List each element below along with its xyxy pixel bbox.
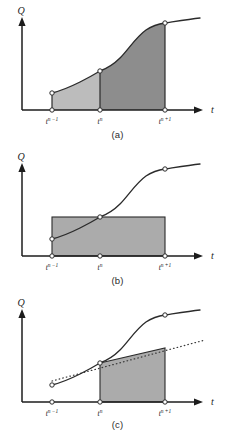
axis-marker bbox=[50, 254, 54, 258]
y-axis-arrow-b bbox=[18, 163, 25, 172]
axis-marker bbox=[98, 108, 102, 112]
x-axis-arrow-c bbox=[194, 398, 203, 405]
tick-label-tn-1: tn −1 bbox=[46, 116, 59, 126]
x-axis-label: t bbox=[211, 104, 214, 115]
panel-c: Q t tn −1 tn tn +1 bbox=[0, 292, 235, 439]
y-axis-arrow-a bbox=[18, 17, 25, 26]
curve-marker bbox=[50, 91, 54, 95]
figure-three-panel-integration: Q t tn −1 tn tn +1 (a) bbox=[0, 0, 235, 442]
panel-caption-b: (b) bbox=[0, 275, 235, 286]
shaded-rectangle-b bbox=[52, 217, 165, 256]
curve-marker bbox=[163, 21, 167, 25]
tick-label-tn: tn bbox=[98, 116, 103, 126]
panel-caption-c: (c) bbox=[0, 419, 235, 430]
tick-label-tn: tn bbox=[98, 262, 103, 272]
curve-marker bbox=[98, 361, 102, 365]
y-axis-arrow-c bbox=[18, 309, 25, 318]
tick-label-tn-1: tn −1 bbox=[46, 262, 59, 272]
tick-label-tn-1: tn −1 bbox=[46, 408, 59, 418]
panel-b: Q t tn −1 tn tn +1 bbox=[0, 146, 235, 293]
axis-marker bbox=[98, 400, 102, 404]
curve-marker bbox=[163, 313, 167, 317]
curve-marker bbox=[98, 215, 102, 219]
y-axis-label: Q bbox=[17, 297, 25, 308]
x-axis-arrow-b bbox=[194, 252, 203, 259]
axis-marker bbox=[50, 108, 54, 112]
x-axis-arrow-a bbox=[194, 106, 203, 113]
shaded-trapezoid-c bbox=[100, 348, 165, 402]
curve-marker bbox=[50, 237, 54, 241]
x-axis-label: t bbox=[211, 396, 214, 407]
curve-marker bbox=[98, 69, 102, 73]
axis-marker bbox=[163, 400, 167, 404]
y-axis-label: Q bbox=[17, 151, 25, 162]
x-axis-label: t bbox=[211, 250, 214, 261]
y-axis-label: Q bbox=[17, 5, 25, 16]
tick-label-tn: tn bbox=[98, 408, 103, 418]
tick-label-tn+1: tn +1 bbox=[159, 408, 172, 418]
axis-marker bbox=[163, 108, 167, 112]
axis-marker bbox=[50, 400, 54, 404]
axis-marker bbox=[98, 254, 102, 258]
tick-label-tn+1: tn +1 bbox=[159, 262, 172, 272]
curve-marker bbox=[50, 383, 54, 387]
panel-a: Q t tn −1 tn tn +1 bbox=[0, 0, 235, 147]
curve-marker bbox=[163, 167, 167, 171]
tick-label-tn+1: tn +1 bbox=[159, 116, 172, 126]
axis-marker bbox=[163, 254, 167, 258]
panel-caption-a: (a) bbox=[0, 129, 235, 140]
